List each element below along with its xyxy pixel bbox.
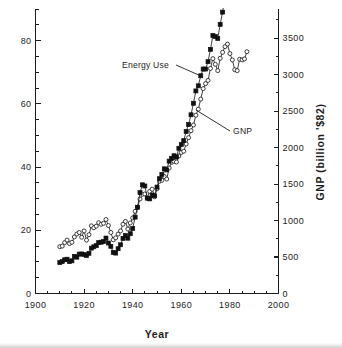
tick-label-right: 1000 [283, 216, 305, 226]
data-point-filled-square [216, 37, 220, 41]
annotation-gnp-leader [196, 110, 230, 131]
data-point-filled-square [131, 227, 135, 231]
tick-label-left: 0 [26, 289, 31, 299]
tick-label-x: 1980 [219, 300, 241, 310]
data-point-filled-square [133, 215, 137, 219]
data-point-filled-square [87, 251, 91, 255]
data-point-filled-square [128, 232, 132, 236]
tick-label-x: 1960 [170, 300, 192, 310]
data-point-open-circle [191, 123, 195, 127]
data-point-filled-square [160, 172, 164, 176]
data-point-open-circle [230, 58, 234, 62]
chart-figure: 020406080 0500100015002000250030003500 1… [0, 0, 342, 348]
data-point-filled-square [182, 139, 186, 143]
data-point-open-circle [208, 66, 212, 70]
data-point-filled-square [119, 243, 123, 247]
tick-group-left: 020406080 [21, 9, 41, 299]
data-point-open-circle [104, 218, 108, 222]
data-point-filled-square [208, 47, 212, 51]
data-point-open-circle [213, 62, 217, 66]
data-point-open-circle [165, 177, 169, 181]
data-point-filled-square [148, 197, 152, 201]
data-point-open-circle [80, 235, 84, 239]
data-point-open-circle [242, 57, 246, 61]
data-point-open-circle [194, 113, 198, 117]
data-point-open-circle [235, 69, 239, 73]
data-point-open-circle [77, 230, 81, 234]
tick-label-right: 2500 [283, 106, 305, 116]
annotation-energy-use-text: Energy Use [122, 60, 169, 70]
data-point-open-circle [128, 221, 132, 225]
data-point-open-circle [82, 229, 86, 233]
data-point-filled-square [196, 84, 200, 88]
tick-label-x: 1920 [73, 300, 95, 310]
data-point-filled-square [153, 194, 157, 198]
data-point-open-circle [119, 229, 123, 233]
data-point-filled-square [191, 101, 195, 105]
tick-label-left: 40 [21, 162, 32, 172]
tick-label-x: 1940 [122, 300, 144, 310]
data-point-open-circle [102, 221, 106, 225]
data-point-open-circle [218, 56, 222, 60]
data-point-open-circle [85, 238, 89, 242]
tick-label-right: 3000 [283, 70, 305, 80]
annotation-energy-use: Energy Use [122, 60, 201, 76]
data-point-open-circle [123, 219, 127, 223]
tick-label-left: 60 [21, 99, 32, 109]
data-point-filled-square [114, 251, 118, 255]
data-point-filled-square [194, 89, 198, 93]
tick-label-left: 80 [21, 36, 32, 46]
chart-svg: 020406080 0500100015002000250030003500 1… [0, 0, 342, 348]
x-axis-title: Year [145, 328, 170, 340]
tick-label-right: 2000 [283, 143, 305, 153]
tick-label-right: 1500 [283, 179, 305, 189]
series-energy-use [58, 42, 249, 249]
tick-label-right: 500 [283, 252, 299, 262]
data-point-open-circle [114, 236, 118, 240]
data-point-filled-square [143, 184, 147, 188]
data-point-open-circle [106, 224, 110, 228]
data-point-open-circle [109, 230, 113, 234]
data-point-filled-square [155, 185, 159, 189]
data-point-filled-square [221, 10, 225, 14]
data-point-open-circle [70, 240, 74, 244]
series-line [60, 44, 247, 247]
data-point-open-circle [150, 187, 154, 191]
data-point-open-circle [87, 233, 91, 237]
data-point-filled-square [116, 247, 120, 251]
series-gnp [58, 0, 249, 265]
tick-label-right: 3500 [283, 33, 305, 43]
data-point-open-circle [189, 129, 193, 133]
data-point-open-circle [206, 78, 210, 82]
data-point-open-circle [211, 57, 215, 61]
data-point-open-circle [199, 97, 203, 101]
data-point-filled-square [218, 22, 222, 26]
data-point-open-circle [245, 50, 249, 54]
tick-label-x: 2000 [268, 300, 290, 310]
data-point-filled-square [189, 113, 193, 117]
data-point-open-circle [182, 149, 186, 153]
data-point-filled-square [184, 129, 188, 133]
data-point-filled-square [174, 155, 178, 159]
data-point-filled-square [136, 205, 140, 209]
tick-group-x: 190019201940196019802000 [25, 289, 290, 310]
tick-label-left: 20 [21, 225, 32, 235]
data-point-open-circle [228, 52, 232, 56]
data-point-filled-square [165, 168, 169, 172]
data-point-open-circle [216, 69, 220, 73]
data-point-open-circle [174, 160, 178, 164]
tick-label-right: 0 [283, 289, 288, 299]
data-point-filled-square [177, 146, 181, 150]
data-point-filled-square [138, 191, 142, 195]
annotation-gnp: GNP [196, 110, 252, 136]
data-point-open-circle [187, 136, 191, 140]
data-point-open-circle [126, 227, 130, 231]
data-point-filled-square [157, 177, 161, 181]
data-point-filled-square [70, 259, 74, 263]
data-point-open-circle [201, 87, 205, 91]
data-point-filled-square [204, 67, 208, 71]
data-point-filled-square [109, 244, 113, 248]
data-point-filled-square [187, 123, 191, 127]
data-point-open-circle [225, 42, 229, 46]
y-axis-right-title: GNP (billion '$82) [314, 103, 326, 200]
